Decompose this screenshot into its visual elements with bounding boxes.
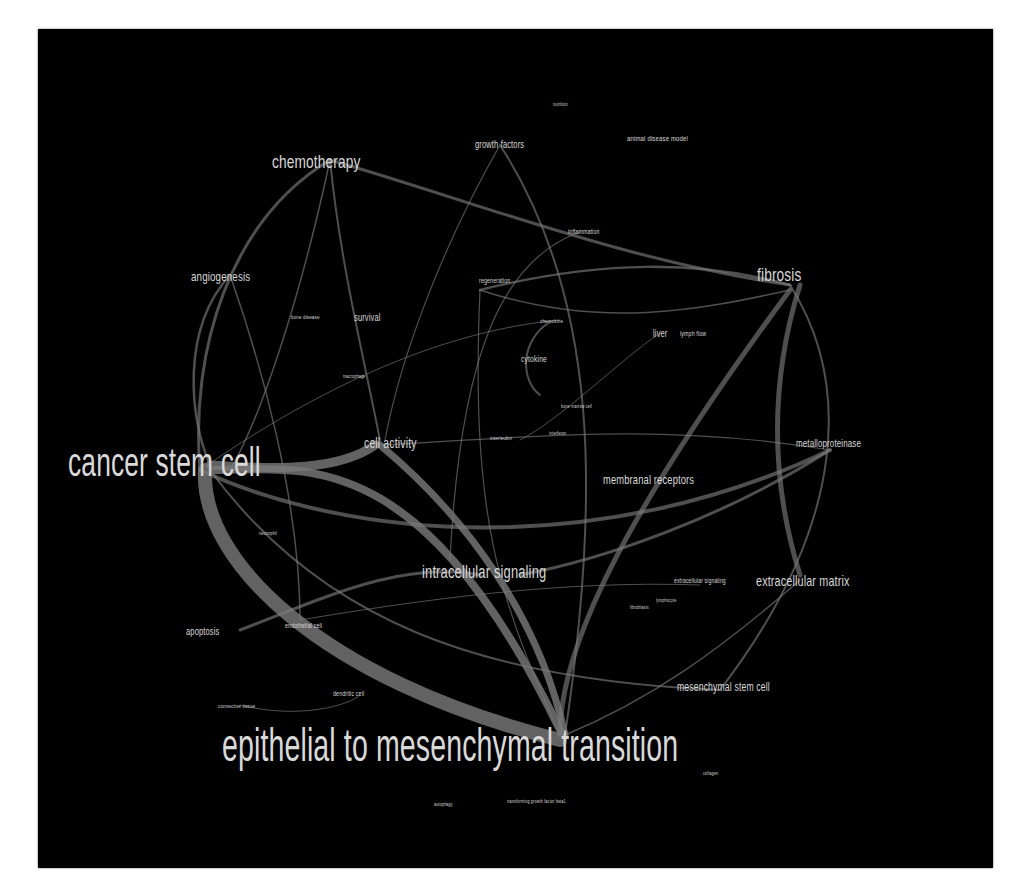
node-label-dend: dendritic cell (333, 690, 364, 697)
node-label-apop: apoptosis (186, 627, 219, 637)
node-label-gf: growth factors (475, 140, 524, 150)
node-label-angio: angiogenesis (191, 270, 250, 283)
graph-edge (560, 290, 790, 735)
graph-edge (480, 290, 790, 313)
node-label-ecm: extracellular matrix (756, 573, 850, 588)
node-label-memrec: membranal receptors (603, 473, 694, 486)
graph-edge (300, 584, 700, 620)
node-label-mmp: metalloproteinase (796, 438, 861, 449)
graph-edge (385, 145, 500, 440)
graph-edge (240, 695, 360, 711)
node-label-fibrosis: fibrosis (757, 265, 801, 284)
node-label-collagen: collagen (703, 771, 718, 776)
node-label-csc: cancer stem cell (68, 442, 261, 482)
node-label-liver: liver (653, 329, 668, 339)
node-label-ics: intracellular signaling (422, 563, 546, 581)
graph-edge (380, 434, 830, 450)
node-label-survival: survival (354, 313, 381, 323)
graph-edge (330, 160, 380, 440)
node-label-conn: connective tissue (218, 703, 255, 709)
node-label-adm: animal disease model (627, 135, 688, 143)
node-label-ifn: interferon (549, 431, 566, 436)
node-label-macro: macrophage (343, 374, 365, 379)
node-label-tgfb: transforming growth factor beta1 (507, 799, 566, 804)
node-label-bone: bone disease (291, 314, 320, 320)
node-label-cellact: cell activity (364, 435, 417, 450)
graph-edge (565, 580, 800, 735)
node-label-il: interleukin (490, 435, 512, 441)
node-label-fibro: fibroblasts (630, 605, 649, 610)
graph-edge (520, 333, 660, 440)
node-label-msc: mesenchymal stem cell (677, 681, 770, 693)
node-label-lympho: lymphocyte (656, 598, 676, 603)
graph-edge (778, 285, 801, 575)
graph-edge (205, 470, 560, 740)
node-label-inflam: inflammation (568, 228, 600, 235)
node-label-ecs: extracellular signaling (674, 577, 726, 584)
graph-edge (330, 160, 790, 285)
node-label-chemo: chemotherapy (272, 152, 360, 171)
graph-edge (200, 450, 830, 528)
node-label-endo: endothelial cell (285, 622, 322, 629)
node-label-autophagy: autophagy (434, 802, 453, 807)
node-label-lymph: lymph flow (680, 330, 706, 337)
node-label-regen: regeneration (479, 277, 510, 284)
node-label-neutro: neutrophil (259, 531, 277, 536)
node-label-emt: epithelial to mesenchymal transition (222, 722, 678, 768)
node-label-chemok: chemokine (540, 318, 563, 324)
node-label-nutri: nutrition (553, 102, 568, 107)
node-label-cytokine: cytokine (521, 355, 547, 364)
node-label-bmc: bone marrow cell (561, 404, 592, 409)
